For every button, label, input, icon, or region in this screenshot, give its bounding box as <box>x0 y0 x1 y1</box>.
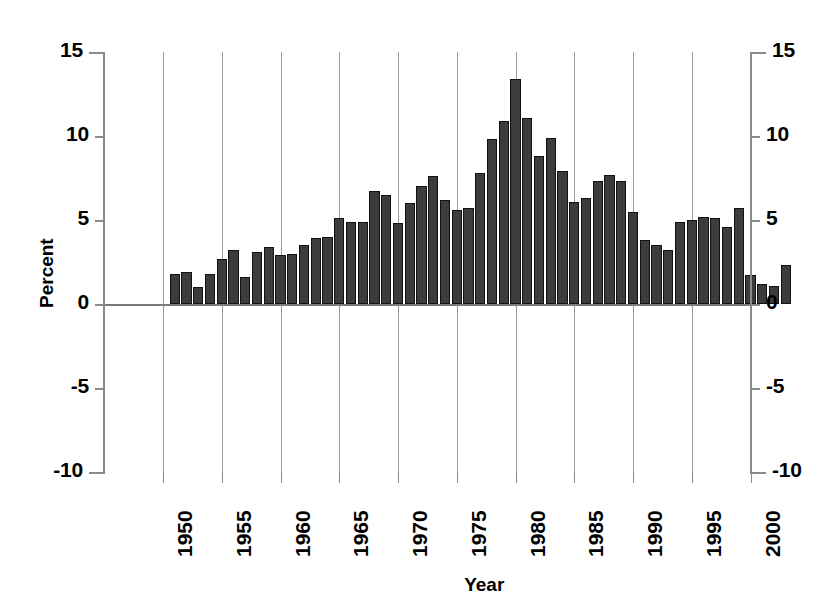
x-tick-label-1985: 1985 <box>584 510 608 557</box>
bar <box>581 198 591 304</box>
bar <box>510 79 520 304</box>
bar <box>334 218 344 304</box>
y-tick-left--5 <box>95 388 105 390</box>
bar <box>499 121 509 304</box>
y-tick-label-left--5: -5 <box>37 374 89 398</box>
x-tick-label-1965: 1965 <box>349 510 373 557</box>
bar <box>217 259 227 304</box>
bar <box>346 222 356 304</box>
x-tick-1985 <box>574 472 575 483</box>
bar <box>687 220 697 304</box>
x-tick-1980 <box>516 472 517 483</box>
x-tick-label-1950: 1950 <box>173 510 197 557</box>
x-tick-1990 <box>633 472 634 483</box>
x-tick-1960 <box>281 472 282 483</box>
y-tick-label-right--5: -5 <box>766 374 818 398</box>
bar <box>381 195 391 304</box>
y-tick-label-left-10: 10 <box>37 122 89 146</box>
zero-baseline <box>104 304 750 306</box>
bar <box>675 222 685 304</box>
bar <box>628 212 638 304</box>
x-tick-1950 <box>163 472 164 483</box>
bar <box>369 191 379 304</box>
bar <box>522 118 532 304</box>
bar <box>663 250 673 304</box>
bar <box>557 171 567 304</box>
bar <box>640 240 650 304</box>
x-tick-label-2000: 2000 <box>761 510 785 557</box>
bar <box>722 227 732 304</box>
x-tick-label-1960: 1960 <box>291 510 315 557</box>
bar <box>170 274 180 304</box>
bar <box>264 247 274 304</box>
y-tick-label-left-5: 5 <box>37 206 89 230</box>
x-tick-label-1995: 1995 <box>702 510 726 557</box>
bar <box>593 181 603 304</box>
x-tick-1975 <box>457 472 458 483</box>
bar <box>416 186 426 304</box>
x-tick-label-1970: 1970 <box>408 510 432 557</box>
bars-layer <box>104 52 750 472</box>
bar <box>452 210 462 304</box>
bar <box>651 245 661 304</box>
y-tick-right-10 <box>750 136 760 138</box>
y-tick-left-5 <box>95 220 105 222</box>
bar <box>534 156 544 304</box>
x-axis-title: Year <box>464 574 504 596</box>
y-tick-right-15 <box>750 52 766 54</box>
y-tick-left-15 <box>89 52 105 54</box>
y-axis-title: Percent <box>36 238 58 308</box>
y-tick-label-right-15: 15 <box>772 38 824 62</box>
bar <box>205 274 215 304</box>
bar <box>181 272 191 304</box>
bar <box>546 138 556 304</box>
x-tick-1965 <box>339 472 340 483</box>
x-tick-label-1980: 1980 <box>526 510 550 557</box>
bar <box>358 222 368 304</box>
y-tick-label-right-10: 10 <box>766 122 818 146</box>
bar <box>299 245 309 304</box>
bar <box>698 217 708 304</box>
y-tick-label-right-5: 5 <box>766 206 818 230</box>
bar-chart-figure: 151050-5-10 151050-5-10 1950195519601965… <box>0 0 833 602</box>
bar <box>405 203 415 304</box>
y-tick-label-right-0: 0 <box>766 290 818 314</box>
bar <box>487 139 497 304</box>
y-axis-line-left <box>103 52 105 472</box>
bar <box>440 200 450 304</box>
y-tick-label-left-15: 15 <box>31 38 83 62</box>
x-tick-label-1990: 1990 <box>643 510 667 557</box>
y-tick-label-left--10: -10 <box>31 458 83 482</box>
y-tick-right--5 <box>750 388 760 390</box>
y-tick-left--10 <box>89 472 105 474</box>
bar <box>475 173 485 304</box>
bar <box>240 277 250 304</box>
bar <box>311 238 321 304</box>
y-tick-right--10 <box>750 472 766 474</box>
bar <box>322 237 332 304</box>
bar <box>604 175 614 304</box>
bar <box>228 250 238 304</box>
x-tick-1955 <box>222 472 223 483</box>
bar <box>252 252 262 304</box>
y-tick-right-5 <box>750 220 760 222</box>
bar <box>193 287 203 304</box>
bar <box>275 255 285 304</box>
bar <box>393 223 403 304</box>
bar <box>710 218 720 304</box>
x-tick-1970 <box>398 472 399 483</box>
bar <box>463 208 473 304</box>
y-tick-right-0 <box>750 304 760 306</box>
plot-area <box>104 52 750 472</box>
y-axis-line-right <box>750 52 752 472</box>
x-tick-label-1955: 1955 <box>232 510 256 557</box>
x-tick-1995 <box>692 472 693 483</box>
bar <box>428 176 438 304</box>
x-tick-2000 <box>751 472 752 483</box>
y-tick-left-10 <box>95 136 105 138</box>
y-tick-label-right--10: -10 <box>772 458 824 482</box>
x-tick-label-1975: 1975 <box>467 510 491 557</box>
bar <box>616 181 626 304</box>
bar <box>734 208 744 304</box>
bar <box>287 254 297 304</box>
